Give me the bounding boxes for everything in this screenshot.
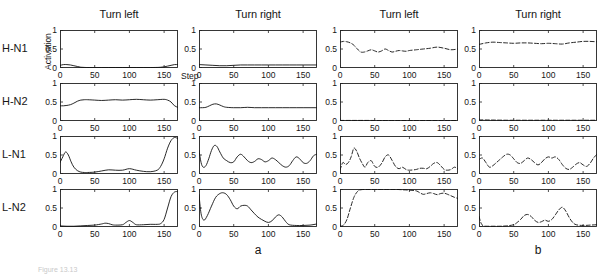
y-tick-label: 0.5 [34,44,57,54]
x-tick-label: 150 [291,123,315,133]
x-tick-label: 100 [117,229,141,239]
group-label-a: a [238,243,278,257]
y-tick-label: 0.5 [453,44,476,54]
x-tick-label: 50 [83,70,107,80]
x-tick-label: 50 [363,123,387,133]
plot-area [479,189,597,227]
y-tick-label: 0.5 [173,44,196,54]
y-tick-label: 1 [314,78,337,88]
plot-panel-a-h-n2-turn-right [199,83,317,121]
row-label-h-n2: H-N2 [2,95,28,107]
y-tick-label: 1 [34,78,57,88]
x-tick-label: 100 [256,123,280,133]
column-title-3: Turn left [340,8,458,20]
x-tick-label: 50 [502,176,526,186]
x-tick-label: 150 [291,176,315,186]
y-tick-label: 1 [173,78,196,88]
y-tick-label: 0.5 [314,97,337,107]
y-tick-label: 0.5 [173,203,196,213]
x-tick-label: 100 [536,229,560,239]
y-tick-label: 1 [34,25,57,35]
data-trace [60,137,178,172]
plot-panel-a-l-n1-turn-right [199,136,317,174]
data-trace [479,154,597,169]
plot-panel-b-l-n2-turn-right [479,189,597,227]
y-tick-label: 1 [453,131,476,141]
x-tick-label: 150 [291,70,315,80]
y-tick-label: 0.5 [314,203,337,213]
data-trace [199,193,317,226]
x-tick-label: 50 [502,123,526,133]
column-title-4: Turn right [479,8,597,20]
plot-panel-a-h-n1-turn-left [60,30,178,68]
row-label-h-n1: H-N1 [2,42,28,54]
x-tick-label: 0 [328,229,352,239]
plot-area [199,189,317,227]
plot-area [479,30,597,68]
plot-panel-b-h-n1-turn-right [479,30,597,68]
plot-panel-b-l-n2-turn-left [340,189,458,227]
x-tick-label: 50 [222,70,246,80]
y-tick-label: 0.5 [453,203,476,213]
y-tick-label: 0.5 [34,150,57,160]
x-tick-label: 0 [48,229,72,239]
y-tick-label: 0.5 [314,150,337,160]
plot-area [199,136,317,174]
plot-area [60,189,178,227]
y-tick-label: 1 [453,78,476,88]
plot-panel-a-h-n2-turn-left [60,83,178,121]
x-tick-label: 100 [117,176,141,186]
x-tick-label: 100 [397,123,421,133]
y-tick-label: 0.5 [34,203,57,213]
y-tick-label: 1 [173,131,196,141]
plot-panel-a-h-n1-turn-right [199,30,317,68]
x-tick-label: 50 [83,176,107,186]
row-label-l-n1: L-N1 [2,148,26,160]
data-trace [340,41,458,52]
x-tick-label: 150 [571,70,595,80]
y-tick-label: 0.5 [173,150,196,160]
y-tick-label: 0.5 [453,97,476,107]
y-tick-label: 1 [453,184,476,194]
plot-area [60,30,178,68]
figure-container: Turn leftTurn rightTurn leftTurn rightH-… [0,0,605,276]
plot-panel-a-l-n1-turn-left [60,136,178,174]
y-tick-label: 1 [34,131,57,141]
y-tick-label: 0.5 [173,97,196,107]
plot-panel-b-h-n1-turn-left [340,30,458,68]
plot-panel-a-l-n2-turn-right [199,189,317,227]
x-tick-label: 0 [187,229,211,239]
plot-area [60,136,178,174]
x-tick-label: 100 [397,70,421,80]
x-tick-label: 100 [536,70,560,80]
data-trace [479,41,597,44]
row-label-l-n2: L-N2 [2,201,26,213]
x-tick-label: 100 [397,229,421,239]
x-tick-label: 50 [363,176,387,186]
y-tick-label: 1 [314,184,337,194]
plot-panel-b-l-n1-turn-right [479,136,597,174]
x-tick-label: 50 [222,123,246,133]
plot-area [340,136,458,174]
x-tick-label: 50 [363,229,387,239]
plot-area [199,83,317,121]
plot-area [199,30,317,68]
plot-area [60,83,178,121]
data-trace [479,207,597,226]
plot-area [340,83,458,121]
y-tick-label: 1 [173,184,196,194]
x-tick-label: 0 [467,229,491,239]
x-tick-label: 150 [571,123,595,133]
x-tick-label: 100 [256,176,280,186]
data-trace [340,189,458,226]
y-tick-label: 1 [314,131,337,141]
x-tick-label: 100 [117,70,141,80]
x-tick-label: 100 [397,176,421,186]
x-tick-label: 100 [256,70,280,80]
y-tick-label: 0.5 [314,44,337,54]
x-tick-label: 50 [502,70,526,80]
group-label-b: b [518,243,558,257]
x-tick-label: 100 [536,176,560,186]
x-tick-label: 150 [291,229,315,239]
x-tick-label: 50 [502,229,526,239]
